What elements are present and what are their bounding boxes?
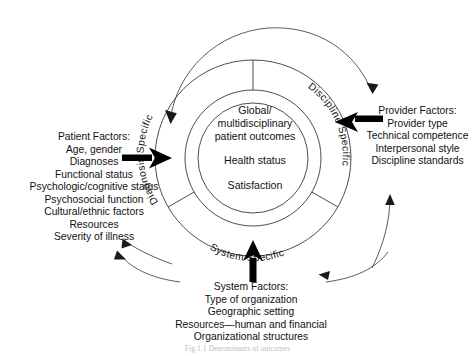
patient-factors-item: Resources — [6, 219, 182, 232]
arrowhead-top-left — [165, 110, 177, 124]
system-factors-item: Resources—human and financial — [148, 319, 354, 332]
arrowhead-bottom-right — [319, 271, 331, 280]
patient-factors-item: Age, gender — [6, 144, 182, 157]
core-line-3: patient outcomes — [190, 130, 320, 143]
outer-arc-bottom-right — [326, 252, 388, 282]
system-factors-item: Organizational structures — [148, 331, 354, 344]
patient-factors-title: Patient Factors: — [6, 131, 182, 144]
patient-factors-item: Functional status — [6, 169, 182, 182]
provider-factors-block: Provider Factors: Provider type Technica… — [360, 105, 475, 168]
arrowhead-top-right — [367, 83, 379, 94]
outer-arc-bottom-left — [118, 252, 180, 282]
provider-factors-item: Technical competence — [360, 130, 475, 143]
arrowhead-right-up — [385, 194, 395, 205]
core-line-2: multidisciplinary — [190, 117, 320, 130]
system-factors-block: System Factors: Type of organization Geo… — [148, 281, 354, 344]
system-factors-title: System Factors: — [148, 281, 354, 294]
ring-divider-lower-right — [312, 192, 338, 207]
figure-root: Diagnosis Specific Discipline Specific S… — [0, 0, 475, 356]
provider-factors-item: Discipline standards — [360, 155, 475, 168]
outer-arc-right-up — [372, 196, 390, 268]
patient-factors-block: Patient Factors: Age, gender Diagnoses F… — [6, 131, 182, 244]
core-line-1: Global/ — [190, 104, 320, 117]
patient-factors-item: Severity of illness — [6, 231, 182, 244]
figure-caption: Fig 1.1 Determinants of outcomes — [0, 344, 475, 356]
ring-label-system: System Specific — [208, 241, 285, 263]
patient-factors-item: Psychologic/cognitive status — [6, 181, 182, 194]
provider-factors-item: Interpersonal style — [360, 143, 475, 156]
patient-factors-item: Diagnoses — [6, 156, 182, 169]
provider-factors-title: Provider Factors: — [360, 105, 475, 118]
system-factors-item: Geographic setting — [148, 306, 354, 319]
arrowhead-bottom-left — [114, 251, 126, 260]
core-outcomes-text: Global/ multidisciplinary patient outcom… — [190, 104, 320, 192]
core-line-4: Health status — [190, 154, 320, 167]
patient-factors-item: Cultural/ethnic factors — [6, 206, 182, 219]
provider-factors-item: Provider type — [360, 118, 475, 131]
core-spacer-2 — [190, 168, 320, 179]
patient-factors-item: Psychosocial function — [6, 194, 182, 207]
core-line-5: Satisfaction — [190, 179, 320, 192]
core-spacer-1 — [190, 143, 320, 154]
system-factors-item: Type of organization — [148, 294, 354, 307]
